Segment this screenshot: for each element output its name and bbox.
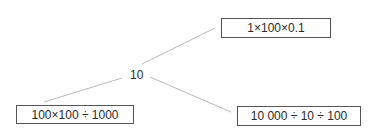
center-value: 10 xyxy=(130,68,143,82)
expression-box-right: 10 000 ÷ 10 ÷ 100 xyxy=(237,106,361,126)
connector-to-left-box xyxy=(44,78,122,102)
expression-box-top: 1×100×0.1 xyxy=(221,18,331,38)
connector-to-top-box xyxy=(142,28,215,64)
connector-to-right-box xyxy=(150,77,231,112)
expression-box-left: 100×100 ÷ 1000 xyxy=(16,105,134,124)
